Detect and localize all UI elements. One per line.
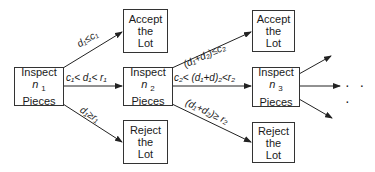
continuation-ellipsis: · · · <box>345 77 375 109</box>
box-text: Lot <box>138 148 153 160</box>
arrow-n3-up <box>299 56 331 74</box>
inspect-n3-box: Inspect n 3 Pieces <box>252 67 300 107</box>
edge-label-continue-2: c₂< (d₁+d)₂<r₂ <box>174 73 235 83</box>
box-text: Lot <box>266 37 281 49</box>
sample-size-n1: n 1 <box>32 78 46 95</box>
box-text: Reject <box>258 125 289 137</box>
reject-lot-box-2: Reject the Lot <box>252 122 295 163</box>
box-text: Pieces <box>259 96 292 108</box>
box-text: Pieces <box>22 95 55 107</box>
box-text: Inspect <box>258 66 293 78</box>
box-text: Inspect <box>130 66 165 78</box>
arrow-n3-down <box>299 99 332 118</box>
inspect-n2-box: Inspect n 2 Pieces <box>123 67 173 106</box>
box-text: Accept <box>257 13 291 25</box>
box-text: Inspect <box>21 66 56 78</box>
accept-lot-box-1: Accept the Lot <box>123 9 168 53</box>
accept-lot-box-2: Accept the Lot <box>252 10 295 52</box>
box-text: the <box>266 25 281 37</box>
box-text: Lot <box>266 149 281 161</box>
inspect-n1-box: Inspect n 1 Pieces <box>14 67 64 106</box>
box-text: Lot <box>138 37 153 49</box>
box-text: Accept <box>129 13 163 25</box>
box-text: Pieces <box>131 95 164 107</box>
sample-size-n3: n 3 <box>269 78 283 95</box>
box-text: the <box>138 25 153 37</box>
box-text: the <box>266 137 281 149</box>
edge-label-continue-1: c₁< d₁< r₁ <box>66 73 107 83</box>
reject-lot-box-1: Reject the Lot <box>123 120 168 164</box>
box-text: Reject <box>130 124 161 136</box>
box-text: the <box>138 136 153 148</box>
sample-size-n2: n 2 <box>141 78 155 95</box>
